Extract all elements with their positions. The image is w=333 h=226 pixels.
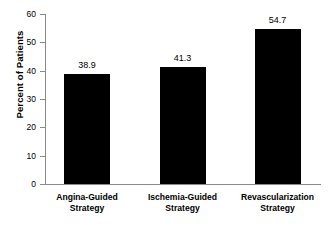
y-tick-50 [40, 42, 45, 43]
y-tick-label-30: 30 [14, 95, 36, 104]
y-tick-20 [40, 127, 45, 128]
bar [160, 67, 206, 184]
bar-value-label: 38.9 [54, 61, 120, 70]
y-tick-label-20: 20 [14, 123, 36, 132]
y-tick-40 [40, 71, 45, 72]
plot-area: 38.941.354.7 [46, 14, 321, 184]
bar [255, 29, 301, 184]
y-tick-label-0: 0 [14, 180, 36, 189]
y-tick-label-10: 10 [14, 152, 36, 161]
y-tick-0 [40, 184, 45, 185]
x-axis-line [45, 184, 321, 185]
category-label-line: Strategy [128, 203, 238, 214]
bar-value-label: 41.3 [150, 54, 216, 63]
bar-value-label: 54.7 [245, 16, 311, 25]
category-label-line: Ischemia-Guided [128, 192, 238, 203]
y-tick-label-60: 60 [14, 10, 36, 19]
category-label-line: Strategy [32, 203, 142, 214]
category-label-line: Strategy [223, 203, 333, 214]
y-tick-label-50: 50 [14, 38, 36, 47]
category-label-line: Revascularization [223, 192, 333, 203]
category-label: Angina-GuidedStrategy [32, 192, 142, 214]
y-tick-30 [40, 99, 45, 100]
y-tick-label-40: 40 [14, 67, 36, 76]
category-label: RevascularizationStrategy [223, 192, 333, 214]
y-tick-60 [40, 14, 45, 15]
category-label-line: Angina-Guided [32, 192, 142, 203]
category-label: Ischemia-GuidedStrategy [128, 192, 238, 214]
y-tick-10 [40, 156, 45, 157]
bar [64, 74, 110, 184]
bar-chart: Percent of Patients 0102030405060 38.941… [0, 0, 333, 226]
